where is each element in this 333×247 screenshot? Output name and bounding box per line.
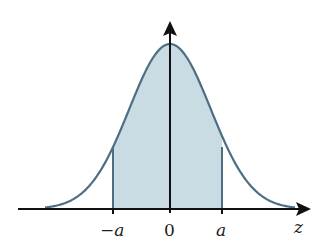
tick-label-neg-a: −a: [100, 220, 124, 240]
tick-label-zero: 0: [164, 220, 175, 240]
shaded-area: [113, 44, 222, 209]
tick-label-pos-a: a: [216, 220, 226, 240]
normal-distribution-diagram: −a 0 a z: [0, 0, 333, 247]
x-axis-label: z: [293, 217, 304, 237]
